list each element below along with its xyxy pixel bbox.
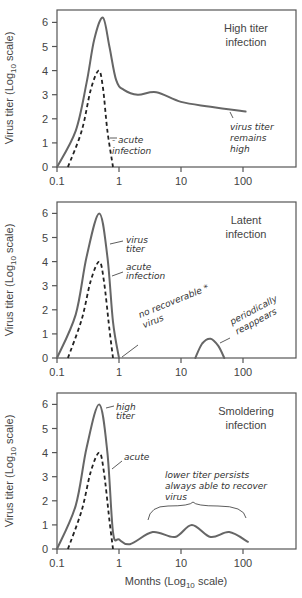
- handwritten-annotation: - acuteinfection: [112, 135, 151, 156]
- y-tick-label: 2: [42, 113, 48, 125]
- x-tick-label: 10: [175, 366, 187, 378]
- panel-title: Latent: [231, 214, 262, 226]
- x-tick-label: 100: [234, 175, 252, 187]
- handwritten-annotation: hightiter: [116, 402, 136, 421]
- y-tick-label: 1: [42, 328, 48, 340]
- panel-title: infection: [226, 228, 267, 240]
- panel-title: Smoldering: [218, 405, 274, 417]
- panel-high-titer-infection: 01234560.1110100Virus titer (Log10 scale…: [3, 10, 296, 187]
- y-tick-label: 2: [42, 495, 48, 507]
- y-tick-label: 5: [42, 423, 48, 435]
- series-acute-infection: [68, 71, 113, 167]
- x-tick-label: 1: [116, 557, 122, 569]
- panel-latent-infection: 01234560.1110100Virus titer (Log10 scale…: [3, 202, 296, 378]
- annotation-leader: [112, 461, 122, 469]
- annotation-leader: [230, 112, 233, 118]
- series-acute-infection: [68, 453, 113, 549]
- annotation-leader: [220, 338, 230, 343]
- x-tick-label: 0.1: [49, 175, 64, 187]
- y-tick-label: 4: [42, 65, 48, 77]
- y-tick-label: 3: [42, 280, 48, 292]
- series-acute-infection: [68, 262, 113, 358]
- x-tick-label: 10: [175, 175, 187, 187]
- figure: 01234560.1110100Virus titer (Log10 scale…: [0, 0, 302, 598]
- y-tick-label: 5: [42, 232, 48, 244]
- x-tick-label: 1: [116, 366, 122, 378]
- y-tick-label: 6: [42, 16, 48, 28]
- y-tick-label: 4: [42, 447, 48, 459]
- x-tick-label: 1: [116, 175, 122, 187]
- handwritten-annotation: acuteinfection: [126, 262, 165, 281]
- series-reappearance: [195, 339, 224, 358]
- x-tick-label: 100: [234, 366, 252, 378]
- y-tick-label: 3: [42, 471, 48, 483]
- y-tick-label: 5: [42, 41, 48, 53]
- handwritten-annotation: lower titer persistsalways able to recov…: [165, 470, 268, 502]
- handwritten-annotation: periodicallyreappears: [227, 293, 284, 337]
- x-tick-label: 100: [234, 557, 252, 569]
- series-virus-titer: [57, 18, 246, 167]
- y-tick-label: 6: [42, 207, 48, 219]
- y-tick-label: 2: [42, 304, 48, 316]
- annotation-leader: [122, 345, 138, 357]
- handwritten-annotation: no recoverable *virus: [137, 282, 215, 330]
- y-tick-label: 4: [42, 256, 48, 268]
- handwritten-annotation: virustiter: [126, 235, 148, 254]
- y-axis-label: Virus titer (Log10 scale): [3, 415, 18, 528]
- panel-title: High titer: [224, 22, 268, 34]
- y-tick-label: 1: [42, 137, 48, 149]
- y-tick-label: 0: [42, 352, 48, 364]
- x-axis-label: Months (Log10 scale): [125, 575, 227, 590]
- x-tick-label: 0.1: [49, 557, 64, 569]
- annotation-leader: [112, 272, 123, 276]
- y-tick-label: 0: [42, 161, 48, 173]
- handwritten-annotation: acute: [124, 452, 150, 462]
- panel-title: infection: [226, 36, 267, 48]
- y-tick-label: 0: [42, 543, 48, 555]
- annotation-leader: [148, 502, 246, 520]
- panel-title: infection: [226, 419, 267, 431]
- y-tick-label: 3: [42, 89, 48, 101]
- x-tick-label: 0.1: [49, 366, 64, 378]
- panel-smoldering-infection: 01234560.1110100Virus titer (Log10 scale…: [3, 393, 296, 590]
- y-axis-label: Virus titer (Log10 scale): [3, 32, 18, 145]
- y-tick-label: 1: [42, 519, 48, 531]
- annotation-leader: [106, 406, 114, 408]
- x-tick-label: 10: [175, 557, 187, 569]
- y-tick-label: 6: [42, 398, 48, 410]
- annotation-leader: [110, 241, 123, 244]
- handwritten-annotation: virus titerremainshigh: [230, 122, 275, 154]
- y-axis-label: Virus titer (Log10 scale): [3, 224, 18, 337]
